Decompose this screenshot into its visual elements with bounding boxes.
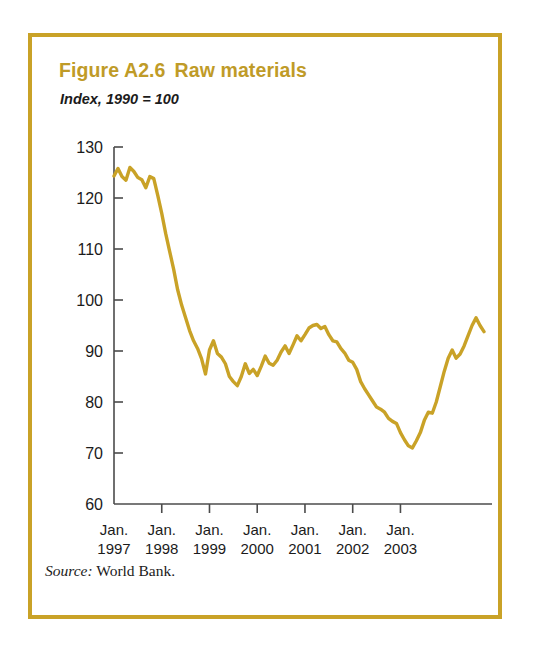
x-tick-label-year: 2001 bbox=[288, 540, 321, 557]
data-series-group bbox=[114, 167, 484, 448]
x-tick-label-year: 1999 bbox=[193, 540, 226, 557]
y-tick-label: 80 bbox=[85, 394, 103, 411]
y-axis: 60708090100110120130 bbox=[76, 139, 123, 513]
y-tick-label: 90 bbox=[85, 343, 103, 360]
x-tick-label-month: Jan. bbox=[243, 521, 271, 538]
x-tick-label-year: 1997 bbox=[97, 540, 130, 557]
y-tick-label: 70 bbox=[85, 445, 103, 462]
data-series-line bbox=[114, 167, 484, 448]
x-tick-label-year: 1998 bbox=[145, 540, 178, 557]
x-tick-label-month: Jan. bbox=[148, 521, 176, 538]
source-text: World Bank. bbox=[96, 562, 175, 579]
x-tick-label-year: 2000 bbox=[241, 540, 274, 557]
x-tick-label-month: Jan. bbox=[100, 521, 128, 538]
x-tick-label-month: Jan. bbox=[386, 521, 414, 538]
source-label: Source: bbox=[45, 562, 93, 579]
chart-plot-area: 60708090100110120130 Jan.1997Jan.1998Jan… bbox=[32, 37, 506, 623]
x-tick-label-month: Jan. bbox=[195, 521, 223, 538]
x-tick-label-year: 2002 bbox=[336, 540, 369, 557]
y-tick-label: 110 bbox=[77, 241, 103, 258]
y-tick-label: 120 bbox=[76, 190, 103, 207]
x-tick-label-month: Jan. bbox=[291, 521, 319, 538]
x-axis: Jan.1997Jan.1998Jan.1999Jan.2000Jan.2001… bbox=[97, 504, 492, 557]
x-tick-label-year: 2003 bbox=[384, 540, 417, 557]
raw-materials-line-chart: 60708090100110120130 Jan.1997Jan.1998Jan… bbox=[32, 37, 506, 623]
y-tick-label: 60 bbox=[85, 496, 103, 513]
source-note: Source: World Bank. bbox=[45, 562, 175, 580]
y-tick-label: 100 bbox=[76, 292, 103, 309]
figure-frame: Figure A2.6Raw materials Index, 1990 = 1… bbox=[28, 33, 502, 619]
y-tick-label: 130 bbox=[76, 139, 103, 156]
x-tick-label-month: Jan. bbox=[339, 521, 367, 538]
